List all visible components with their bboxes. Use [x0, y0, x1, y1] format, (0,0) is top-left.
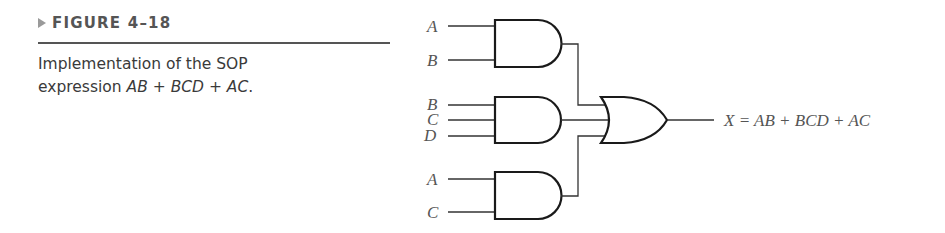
and-gate-2: [495, 97, 561, 143]
wire-ac-to-or: [561, 136, 606, 196]
input-label-g3-a: A: [426, 170, 438, 189]
input-label-g1-b: B: [427, 51, 438, 70]
and-gate-3: [495, 172, 562, 219]
wire-ab-to-or: [561, 44, 606, 105]
input-label-g1-a: A: [426, 17, 438, 36]
and-gates: [495, 20, 562, 219]
input-label-g3-c: C: [427, 203, 439, 222]
and-gate-1: [495, 20, 562, 67]
input-wires: [448, 26, 495, 212]
intermediate-wires: [561, 44, 610, 196]
input-label-g2-d: D: [423, 126, 437, 145]
logic-circuit-diagram: A B B C D A C X = AB + BCD + AC: [0, 0, 945, 233]
or-gate: [601, 97, 667, 143]
output-expression-label: X = AB + BCD + AC: [723, 111, 871, 130]
